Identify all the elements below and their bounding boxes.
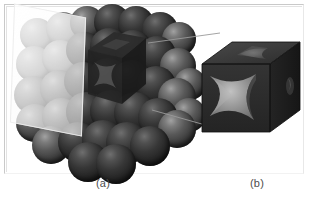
caption-panel-a: (a)	[96, 177, 110, 189]
panel-a-sphere-cluster	[6, 2, 196, 177]
caption-panel-b: (b)	[250, 177, 264, 189]
sphere-atom	[130, 126, 170, 166]
panel-b-unit-cell	[196, 36, 308, 140]
unit-cell-cube-icon	[196, 36, 308, 140]
figure-root: (a) (b)	[0, 0, 312, 202]
